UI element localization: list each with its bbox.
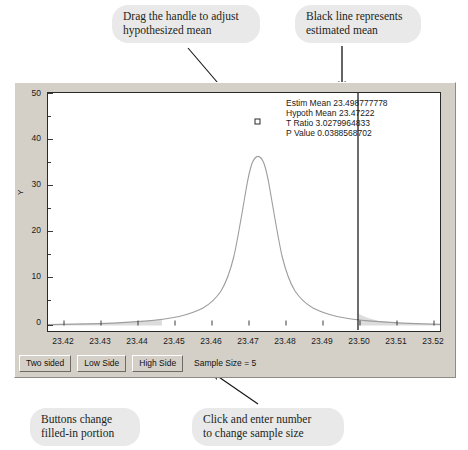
- hypothesized-mean-handle[interactable]: [255, 119, 260, 124]
- x-tick-2344: 23.44: [117, 336, 157, 346]
- y-axis-ticks: [48, 94, 53, 326]
- low-side-button[interactable]: Low Side: [77, 355, 126, 372]
- stat-p-value: P Value 0.0388568702: [286, 129, 388, 139]
- y-tick-40: 40: [17, 133, 41, 143]
- density-curve: [48, 156, 440, 324]
- x-tick-2345: 23.45: [154, 336, 194, 346]
- callout-drag-handle: Drag the handle to adjust hypothesized m…: [112, 5, 260, 43]
- sample-size-field[interactable]: Sample Size = 5: [189, 355, 261, 372]
- x-tick-2349: 23.49: [302, 336, 342, 346]
- x-tick-2351: 23.51: [376, 336, 416, 346]
- y-tick-0: 0: [17, 317, 41, 327]
- y-tick-10: 10: [17, 271, 41, 281]
- two-sided-button[interactable]: Two sided: [19, 355, 71, 372]
- hypothesis-test-panel: 50 40 30 20 10 0 Y: [14, 82, 456, 378]
- y-tick-50: 50: [17, 88, 41, 98]
- x-tick-2343: 23.43: [80, 336, 120, 346]
- x-tick-2352: 23.52: [413, 336, 453, 346]
- statistics-readout: Estim Mean 23.498777778 Hypoth Mean 23.4…: [286, 99, 388, 139]
- x-tick-2347: 23.47: [228, 336, 268, 346]
- high-side-button[interactable]: High Side: [132, 355, 183, 372]
- x-tick-2350: 23.50: [339, 336, 379, 346]
- plot-frame[interactable]: Estim Mean 23.498777778 Hypoth Mean 23.4…: [47, 92, 441, 332]
- x-tick-2346: 23.46: [191, 336, 231, 346]
- x-tick-2348: 23.48: [265, 336, 305, 346]
- x-tick-2342: 23.42: [43, 336, 83, 346]
- button-bar: Two sided Low Side High Side Sample Size…: [15, 349, 457, 377]
- y-tick-30: 30: [17, 179, 41, 189]
- chart-area: 50 40 30 20 10 0 Y: [15, 83, 457, 351]
- callout-black-line: Black line represents estimated mean: [295, 5, 421, 43]
- callout-sample-size: Click and enter number to change sample …: [192, 408, 344, 446]
- y-tick-20: 20: [17, 225, 41, 235]
- callout-buttons-change: Buttons change filled-in portion: [30, 408, 140, 446]
- y-axis-label: Y: [16, 190, 25, 195]
